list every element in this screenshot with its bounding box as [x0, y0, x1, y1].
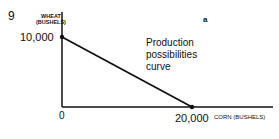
chart-plot [0, 0, 279, 139]
point-corn-intercept [190, 105, 194, 109]
ppc-line [62, 37, 192, 107]
point-wheat-intercept [60, 35, 64, 39]
